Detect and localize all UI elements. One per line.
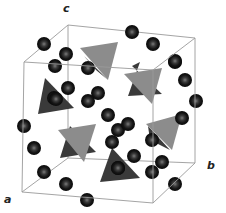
atom-body	[101, 108, 115, 122]
atom-sphere	[61, 81, 75, 95]
atom-sphere	[146, 37, 160, 51]
atom-body	[145, 165, 159, 179]
axis-label-c: c	[63, 3, 70, 14]
back-atoms	[59, 25, 182, 122]
atom-body	[59, 177, 73, 191]
atom-sphere	[37, 37, 51, 51]
atom-body	[146, 37, 160, 51]
atom-body	[125, 25, 139, 39]
atom-sphere	[145, 133, 159, 147]
atom-body	[59, 47, 73, 61]
atom-sphere	[17, 119, 31, 133]
atom-sphere	[37, 165, 51, 179]
atom-body	[121, 117, 135, 131]
atom-sphere	[168, 54, 182, 68]
atom-sphere	[155, 155, 169, 169]
atom-sphere	[48, 59, 62, 73]
atom-sphere	[127, 149, 141, 163]
atom-sphere	[27, 141, 41, 155]
unit-cell-drawing	[0, 0, 226, 213]
tetrahedron-light-face	[124, 68, 162, 104]
atom-sphere	[111, 161, 125, 175]
atom-sphere	[105, 135, 119, 149]
atom-sphere	[59, 177, 73, 191]
atom-body	[168, 54, 182, 68]
atom-body	[105, 135, 119, 149]
atom-sphere	[59, 47, 73, 61]
atom-body	[81, 61, 95, 75]
axis-label-b: b	[207, 160, 215, 171]
atom-sphere	[121, 117, 135, 131]
atom-body	[178, 73, 192, 87]
cell-edge	[153, 163, 195, 203]
atom-body	[189, 94, 203, 108]
atom-body	[168, 177, 182, 191]
atom-body	[127, 149, 141, 163]
atom-body	[111, 161, 125, 175]
atom-sphere	[178, 73, 192, 87]
atom-sphere	[81, 61, 95, 75]
atom-sphere	[125, 25, 139, 39]
atom-body	[61, 81, 75, 95]
atom-body	[80, 193, 94, 207]
atom-body	[27, 141, 41, 155]
atom-body	[175, 111, 189, 125]
atom-sphere	[80, 193, 94, 207]
axis-label-a: a	[4, 194, 11, 205]
atom-sphere	[145, 165, 159, 179]
atom-sphere	[49, 92, 63, 106]
atom-body	[49, 92, 63, 106]
atom-sphere	[81, 94, 95, 108]
atom-body	[37, 165, 51, 179]
tetrahedron	[58, 122, 96, 162]
atom-body	[81, 94, 95, 108]
atom-body	[48, 59, 62, 73]
atom-body	[155, 155, 169, 169]
atom-body	[145, 133, 159, 147]
crystal-structure-diagram: c a b	[0, 0, 226, 213]
atom-sphere	[101, 108, 115, 122]
atom-sphere	[175, 111, 189, 125]
atom-body	[37, 37, 51, 51]
atom-sphere	[189, 94, 203, 108]
atom-sphere	[168, 177, 182, 191]
atom-body	[17, 119, 31, 133]
